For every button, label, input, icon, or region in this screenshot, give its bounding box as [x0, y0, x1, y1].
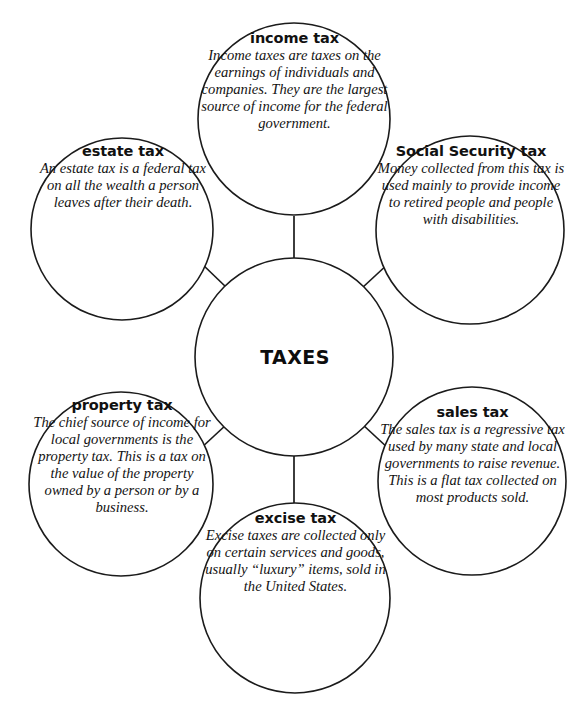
node-description-property-tax: The chief source of income for local gov…: [30, 414, 214, 516]
node-income-tax[interactable]: income tax Income taxes are taxes on the…: [198, 30, 391, 132]
node-social-security-tax[interactable]: Social Security tax Money collected from…: [376, 143, 566, 228]
center-label-taxes: TAXES: [260, 346, 330, 368]
node-title-income-tax: income tax: [250, 30, 339, 46]
node-title-social-security-tax: Social Security tax: [396, 143, 547, 159]
node-estate-tax[interactable]: estate tax An estate tax is a federal ta…: [34, 143, 212, 211]
node-description-excise-tax: Excise taxes are collected only on certa…: [200, 527, 391, 595]
taxes-concept-map: income tax Income taxes are taxes on the…: [0, 0, 586, 720]
node-title-excise-tax: excise tax: [255, 510, 336, 526]
node-sales-tax[interactable]: sales tax The sales tax is a regressive …: [378, 404, 567, 506]
node-property-tax[interactable]: property tax The chief source of income …: [30, 397, 214, 516]
node-description-estate-tax: An estate tax is a federal tax on all th…: [34, 160, 212, 211]
node-description-income-tax: Income taxes are taxes on the earnings o…: [198, 47, 391, 132]
node-center-taxes[interactable]: TAXES: [196, 258, 394, 456]
node-description-social-security-tax: Money collected from this tax is used ma…: [376, 160, 566, 228]
node-title-estate-tax: estate tax: [82, 143, 164, 159]
node-title-property-tax: property tax: [71, 397, 172, 413]
node-excise-tax[interactable]: excise tax Excise taxes are collected on…: [200, 510, 391, 595]
node-description-sales-tax: The sales tax is a regressive tax used b…: [378, 421, 567, 506]
node-title-sales-tax: sales tax: [436, 404, 508, 420]
